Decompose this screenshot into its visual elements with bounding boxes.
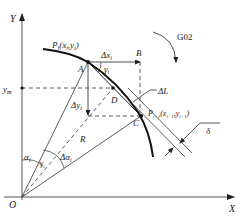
arc-curve [43, 49, 153, 157]
point-d-label: D [110, 95, 118, 105]
line-o-c [22, 116, 141, 197]
x-axis-label: X [228, 203, 236, 214]
ym-tick-dot [20, 86, 23, 89]
delta-alpha-label: Δαi [59, 152, 72, 163]
p-next-label: Pi+1(xi+1,yi+1) [147, 109, 189, 119]
p-i-label: Pi(xi,yi) [51, 40, 79, 51]
point-c-label: C [133, 118, 140, 128]
radius-label: R [79, 134, 86, 144]
gamma-small-label: γi [40, 159, 45, 169]
point-a-label: A [77, 64, 84, 74]
point-c [139, 114, 143, 118]
delta-y-label: Δyi [70, 100, 82, 111]
delta-l-leader [133, 90, 157, 102]
point-a [86, 60, 90, 64]
delta-x-label: Δxi [100, 50, 112, 61]
y-axis-label: Y [10, 13, 17, 24]
g02-direction-arrow [153, 32, 176, 62]
gamma-label: γi [104, 64, 110, 75]
point-d [111, 86, 115, 90]
interpolation-diagram: Y X O Pi(xi,yi) Δxi γi B A D C ym Δyi R … [0, 0, 243, 217]
y-m-label: ym [2, 84, 12, 95]
origin-label: O [9, 199, 16, 210]
g02-label: G02 [177, 32, 193, 42]
alpha-label: αi [24, 152, 31, 163]
delta-label: δ [206, 126, 211, 136]
point-b-label: B [136, 48, 142, 58]
delta-l-label: ΔL [157, 86, 168, 96]
